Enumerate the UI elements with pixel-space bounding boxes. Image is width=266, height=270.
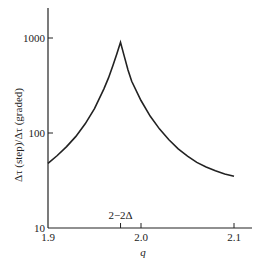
x-tick-label: 2.0 [134,231,148,243]
data-curve [48,42,234,176]
x-tick-label: 2.1 [227,231,241,243]
x-tick-label: 1.9 [41,231,55,243]
chart: 101001000 1.92.02.1 2−2Δ q Δτ (step)/Δτ … [0,0,266,270]
y-tick-label: 1000 [23,32,46,44]
y-axis: 101001000 [23,8,53,234]
annotation-label: 2−2Δ [108,209,132,221]
y-axis-title: Δτ (step)/Δτ (graded) [12,88,25,182]
y-tick-label: 100 [29,127,46,139]
x-axis-title: q [140,246,146,258]
x-axis: 1.92.02.1 [41,223,252,243]
annotations: 2−2Δ [108,209,132,228]
